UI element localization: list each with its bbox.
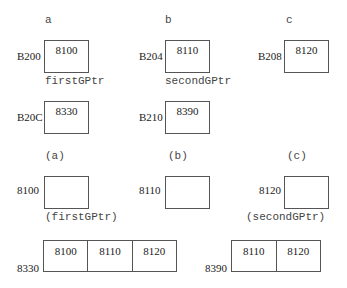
array-block: 8100 8110 8120 bbox=[43, 240, 177, 272]
section-label-c: (c) bbox=[287, 150, 307, 162]
column-label-a: a bbox=[45, 14, 52, 26]
memory-cell: 8330 bbox=[44, 101, 89, 134]
array-cell: 8120 bbox=[133, 241, 176, 271]
cell-value: 8390 bbox=[166, 105, 209, 117]
array-cell: 8120 bbox=[277, 241, 321, 271]
address-label: B204 bbox=[139, 50, 163, 62]
address-label: B20C bbox=[17, 111, 43, 123]
column-label-b: b bbox=[165, 14, 172, 26]
array-address: 8390 bbox=[205, 262, 227, 274]
memory-cell: 8120 bbox=[284, 40, 329, 73]
address-label: B208 bbox=[258, 50, 282, 62]
address-label: 8100 bbox=[17, 184, 39, 196]
memory-cell: 8110 bbox=[165, 40, 210, 73]
column-label-c: c bbox=[286, 14, 293, 26]
address-label: B200 bbox=[17, 50, 41, 62]
address-label: 8120 bbox=[259, 184, 281, 196]
section-label-a: (a) bbox=[45, 150, 65, 162]
address-label: B210 bbox=[139, 111, 163, 123]
pointer-name: firstGPtr bbox=[45, 75, 104, 87]
memory-cell-empty bbox=[165, 176, 210, 209]
memory-cell-empty bbox=[44, 176, 89, 209]
array-cell: 8110 bbox=[88, 241, 132, 271]
cell-value: 8120 bbox=[285, 44, 328, 56]
address-label: 8110 bbox=[139, 184, 161, 196]
array-cell: 8110 bbox=[232, 241, 277, 271]
array-block: 8110 8120 bbox=[231, 240, 321, 272]
cell-value: 8100 bbox=[45, 44, 88, 56]
cell-value: 8330 bbox=[45, 105, 88, 117]
array-cell: 8100 bbox=[44, 241, 88, 271]
memory-cell: 8100 bbox=[44, 40, 89, 73]
pointer-caption: (firstGPtr) bbox=[45, 211, 118, 223]
cell-value: 8110 bbox=[166, 44, 209, 56]
memory-cell: 8390 bbox=[165, 101, 210, 134]
section-label-b: (b) bbox=[168, 150, 188, 162]
pointer-name: secondGPtr bbox=[165, 75, 231, 87]
pointer-caption: (secondGPtr) bbox=[246, 211, 325, 223]
array-address: 8330 bbox=[17, 262, 39, 274]
memory-cell-empty bbox=[284, 176, 329, 209]
